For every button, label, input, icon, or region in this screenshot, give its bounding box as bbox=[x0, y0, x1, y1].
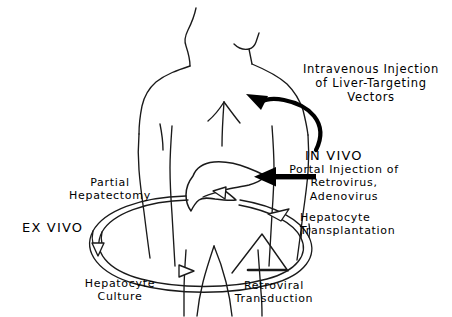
label-ex-vivo: EX VIVO bbox=[22, 220, 83, 236]
label-hepatocyte-culture: Hepatocyte Culture bbox=[68, 277, 172, 304]
spine-center-line bbox=[222, 102, 224, 146]
scapula-left-line bbox=[208, 102, 224, 121]
scapula-right-line bbox=[224, 102, 240, 123]
portal-arrowhead bbox=[254, 167, 276, 186]
liver-gene-therapy-figure: Intravenous Injection of Liver-Targeting… bbox=[0, 0, 452, 317]
label-portal-injection: Portal Injection of Retrovirus, Adenovir… bbox=[278, 163, 410, 203]
cycle-left-joint-outer bbox=[92, 231, 93, 244]
left-shoulder-contour bbox=[139, 66, 190, 134]
head-neck-left-contour bbox=[185, 8, 196, 66]
label-in-vivo: IN VIVO bbox=[305, 148, 363, 164]
label-retroviral-transduction: Retroviral Transduction bbox=[218, 279, 330, 306]
diagram-canvas bbox=[0, 0, 452, 317]
left-armpit-line bbox=[160, 124, 163, 150]
culture-flask bbox=[232, 234, 288, 273]
cycle-left-joint-inner bbox=[101, 232, 102, 244]
collar-notch-right bbox=[234, 33, 259, 49]
label-hepatocyte-transplantation: Hepatocyte Transplantation bbox=[300, 211, 430, 238]
intravenous-arrowhead bbox=[246, 94, 268, 110]
flask-triangle-sides bbox=[232, 234, 288, 273]
left-leg-contour bbox=[184, 250, 186, 316]
left-inner-leg-contour bbox=[197, 246, 214, 316]
label-partial-hepatectomy: Partial Hepatectomy bbox=[62, 176, 158, 203]
label-intravenous-injection: Intravenous Injection of Liver-Targeting… bbox=[296, 62, 446, 104]
arrowhead-right-bottom bbox=[179, 265, 194, 277]
neck-center-line bbox=[249, 49, 252, 64]
